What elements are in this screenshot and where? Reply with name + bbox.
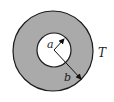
annulus-diagram: a b T [0,0,114,102]
label-a: a [47,38,54,51]
label-b: b [64,71,71,84]
label-T: T [98,46,107,60]
